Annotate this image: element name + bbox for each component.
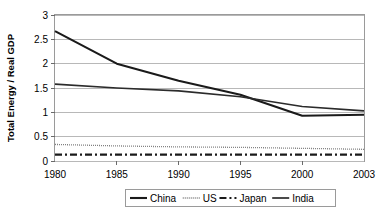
x-tick-label: 1985 bbox=[106, 169, 129, 180]
legend-label-india: India bbox=[292, 193, 314, 204]
x-tick-label: 1990 bbox=[167, 169, 190, 180]
legend-label-china: China bbox=[150, 193, 177, 204]
x-tick-label: 2003 bbox=[353, 169, 376, 180]
y-tick-label: 3 bbox=[42, 10, 48, 21]
y-tick-label: 2.5 bbox=[34, 34, 48, 45]
chart-legend: ChinaUSJapanIndia bbox=[126, 190, 336, 207]
chart-canvas: 00.511.522.53 198019851990199520002003 T… bbox=[0, 0, 384, 209]
y-tick-label: 0 bbox=[42, 156, 48, 167]
y-tick-label: 2 bbox=[42, 58, 48, 69]
x-tick-label: 1980 bbox=[44, 169, 67, 180]
x-tick-label: 1995 bbox=[229, 169, 252, 180]
line-chart-figure: 00.511.522.53 198019851990199520002003 T… bbox=[0, 0, 384, 209]
y-tick-label: 1 bbox=[42, 107, 48, 118]
legend-label-us: US bbox=[203, 193, 217, 204]
y-axis-title: Total Energy / Real GDP bbox=[5, 33, 16, 142]
legend-label-japan: Japan bbox=[239, 193, 266, 204]
x-tick-label: 2000 bbox=[291, 169, 314, 180]
y-tick-label: 0.5 bbox=[34, 131, 48, 142]
y-tick-label: 1.5 bbox=[34, 83, 48, 94]
